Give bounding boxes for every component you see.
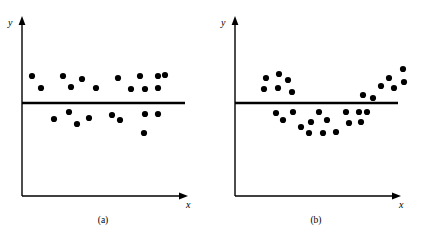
data-point <box>280 117 286 123</box>
data-point <box>333 129 339 135</box>
x-axis-label-b: x <box>399 200 403 210</box>
data-point <box>289 89 295 95</box>
y-axis-label-a: y <box>8 18 12 28</box>
scatter-plot-a <box>0 0 212 236</box>
figure-root: y x y x (a) (b) <box>0 0 425 236</box>
data-point <box>298 124 304 130</box>
data-point <box>356 109 362 115</box>
data-point <box>128 86 134 92</box>
data-point <box>320 130 326 136</box>
data-point <box>370 95 376 101</box>
data-point <box>115 75 121 81</box>
data-point <box>79 76 85 82</box>
data-point <box>273 110 279 116</box>
panel-caption-a: (a) <box>83 216 123 226</box>
data-point <box>66 109 72 115</box>
data-point <box>285 77 291 83</box>
panel-caption-b: (b) <box>296 216 336 226</box>
data-point <box>68 84 74 90</box>
data-point <box>60 73 66 79</box>
axes-group-b <box>232 16 401 199</box>
data-point <box>261 86 267 92</box>
data-point <box>141 130 147 136</box>
y-axis-arrowhead-b <box>232 16 239 25</box>
data-point <box>263 75 269 81</box>
data-point <box>117 117 123 123</box>
data-point <box>276 71 282 77</box>
data-point <box>86 115 92 121</box>
data-point <box>290 109 296 115</box>
data-point <box>155 85 161 91</box>
data-point <box>308 119 314 125</box>
data-point <box>155 73 161 79</box>
data-point <box>74 121 80 127</box>
data-point <box>38 85 44 91</box>
data-point <box>155 111 161 117</box>
data-point <box>109 112 115 118</box>
scatter-panel-a: y x <box>0 0 212 236</box>
data-point <box>275 85 281 91</box>
data-point <box>29 73 35 79</box>
data-point <box>401 79 407 85</box>
data-point <box>142 86 148 92</box>
data-point <box>324 117 330 123</box>
data-points-b <box>261 66 407 136</box>
data-point <box>391 85 397 91</box>
data-point <box>93 85 99 91</box>
data-point <box>51 116 57 122</box>
y-axis-label-b: y <box>221 18 225 28</box>
x-axis-label-a: x <box>186 200 190 210</box>
data-point <box>378 83 384 89</box>
data-point <box>343 109 349 115</box>
data-point <box>306 130 312 136</box>
data-point <box>364 109 370 115</box>
y-axis-arrowhead-a <box>19 16 26 25</box>
axes-group-a <box>19 16 188 199</box>
data-point <box>137 73 143 79</box>
data-point <box>162 72 168 78</box>
scatter-plot-b <box>213 0 425 236</box>
data-point <box>360 92 366 98</box>
data-point <box>386 75 392 81</box>
scatter-panel-b: y x <box>213 0 425 236</box>
data-point <box>142 111 148 117</box>
data-point <box>358 119 364 125</box>
data-point <box>400 66 406 72</box>
data-point <box>316 109 322 115</box>
data-point <box>346 120 352 126</box>
